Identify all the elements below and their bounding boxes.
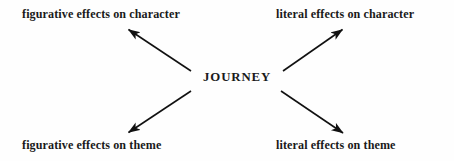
center-node-journey: JOURNEY <box>203 71 271 84</box>
arrow-to-literal-effects-on-character <box>283 30 343 72</box>
node-label-figurative-effects-on-theme: figurative effects on theme <box>22 139 161 151</box>
arrow-to-figurative-effects-on-theme <box>129 91 192 133</box>
node-label-literal-effects-on-character: literal effects on character <box>276 8 414 20</box>
arrow-to-figurative-effects-on-character <box>129 30 192 72</box>
node-label-literal-effects-on-theme: literal effects on theme <box>276 139 396 151</box>
arrow-to-literal-effects-on-theme <box>281 91 343 133</box>
concept-map-diagram: figurative effects on character literal … <box>0 0 454 161</box>
node-label-figurative-effects-on-character: figurative effects on character <box>22 8 180 20</box>
